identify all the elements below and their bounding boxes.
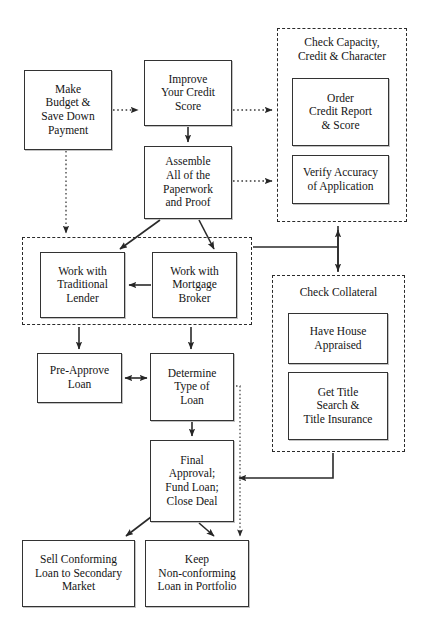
- cut-off-header-text: [262, 0, 426, 9]
- flowchart-canvas: Check Capacity, Credit & Character Check…: [0, 0, 428, 634]
- node-improve-credit-score[interactable]: Improve Your Credit Score: [144, 60, 232, 126]
- node-sell-conforming-loan[interactable]: Sell Conforming Loan to Secondary Market: [22, 540, 135, 607]
- edge-final-to-sell: [126, 517, 151, 536]
- node-final-approval[interactable]: Final Approval; Fund Loan; Close Deal: [150, 440, 234, 522]
- edge-final-to-keep: [199, 523, 214, 536]
- node-get-title-search[interactable]: Get Title Search & Title Insurance: [288, 372, 388, 440]
- node-pre-approve-loan[interactable]: Pre-Approve Loan: [37, 353, 122, 403]
- edge-determine-to-keep: [236, 386, 240, 536]
- node-order-credit-report[interactable]: Order Credit Report & Score: [292, 78, 389, 146]
- node-assemble-paperwork[interactable]: Assemble All of the Paperwork and Proof: [144, 146, 232, 219]
- group-check-collateral-label: Check Collateral: [272, 286, 405, 300]
- group-check-capacity-label: Check Capacity, Credit & Character: [277, 36, 407, 64]
- node-determine-type-of-loan[interactable]: Determine Type of Loan: [150, 353, 234, 421]
- node-work-with-mortgage-broker[interactable]: Work with Mortgage Broker: [152, 252, 237, 318]
- node-keep-nonconforming-loan[interactable]: Keep Non-conforming Loan in Portfolio: [145, 540, 249, 607]
- node-work-with-traditional-lender[interactable]: Work with Traditional Lender: [40, 252, 125, 318]
- edge-collateral-to-final: [239, 453, 333, 478]
- node-make-budget[interactable]: Make Budget & Save Down Payment: [24, 70, 112, 150]
- node-have-house-appraised[interactable]: Have House Appraised: [288, 313, 388, 364]
- node-verify-accuracy[interactable]: Verify Accuracy of Application: [292, 155, 389, 204]
